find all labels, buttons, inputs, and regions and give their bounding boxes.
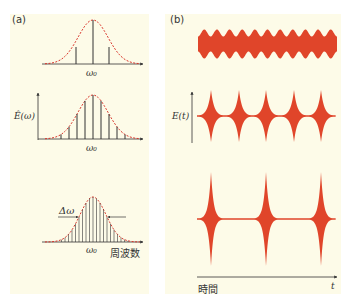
waveform-pulses-5 [192,90,336,143]
time-y-label: E(t) [172,111,189,121]
t-label: t [331,281,335,291]
omega0-label-1: ω₀ [86,68,97,78]
delta-omega-label: Δω [59,205,74,216]
time-label: 時間 [198,281,218,296]
spectrum-3-modes [42,20,143,64]
waveform-beat [198,30,337,59]
frequency-label: 周波数 [110,245,140,260]
spectrum-y-label: Ê(ω) [14,111,35,121]
waveform-pulses-3 [197,172,337,277]
omega0-label-3: ω₀ [86,245,97,255]
spectrum-7-modes [38,93,143,140]
omega0-label-2: ω₀ [86,143,97,153]
spectrum-many-modes [42,197,143,242]
figure-canvas [0,0,352,303]
panel-a-label: (a) [12,14,26,25]
panel-b-label: (b) [170,14,184,25]
